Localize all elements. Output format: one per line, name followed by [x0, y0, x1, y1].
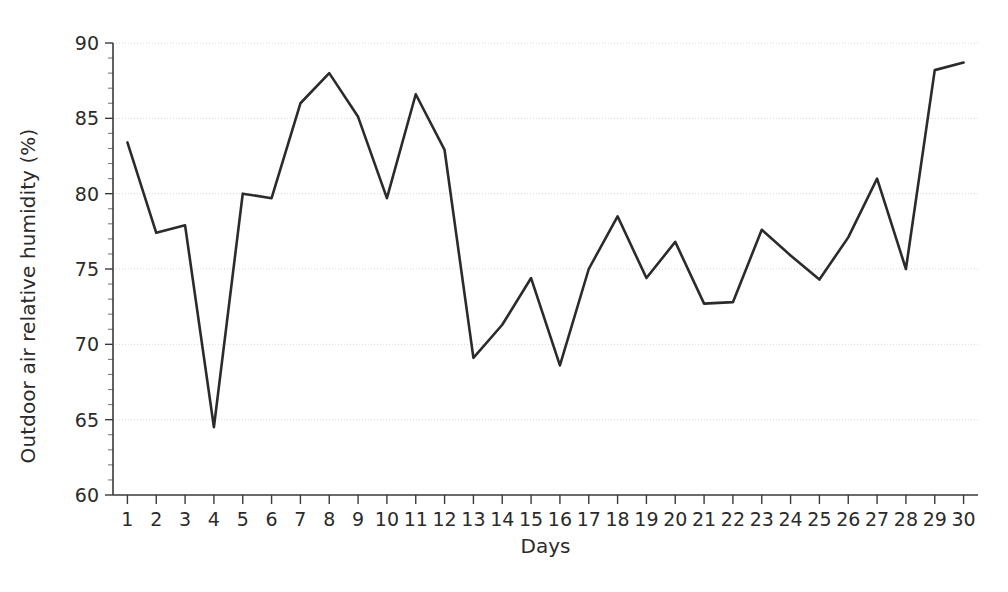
x-tick-label: 11 — [404, 508, 428, 530]
x-tick-label: 17 — [577, 508, 601, 530]
x-tick-label: 18 — [605, 508, 629, 530]
x-tick-label: 4 — [208, 508, 220, 530]
x-tick-label: 6 — [266, 508, 278, 530]
x-tick-label: 12 — [432, 508, 456, 530]
data-series — [127, 63, 963, 428]
humidity-line-chart: Outdoor air relative humidity (%) Days 6… — [0, 0, 1008, 592]
x-tick-label: 24 — [778, 508, 802, 530]
y-tick-label: 85 — [75, 107, 99, 129]
x-tick-label: 9 — [352, 508, 364, 530]
x-tick-label: 1 — [121, 508, 133, 530]
x-tick-label: 10 — [375, 508, 399, 530]
y-tick-label: 70 — [75, 333, 99, 355]
x-axis-ticks — [127, 495, 963, 504]
x-tick-label: 15 — [519, 508, 543, 530]
x-tick-label: 3 — [179, 508, 191, 530]
x-tick-label: 14 — [490, 508, 514, 530]
x-tick-label: 16 — [548, 508, 572, 530]
y-tick-label: 90 — [75, 32, 99, 54]
y-axis-ticks — [105, 43, 113, 495]
x-tick-label: 8 — [323, 508, 335, 530]
x-tick-label: 5 — [237, 508, 249, 530]
x-tick-label: 2 — [150, 508, 162, 530]
y-tick-label: 80 — [75, 183, 99, 205]
plot-area: 60657075808590 1234567891011121314151617… — [0, 0, 1008, 592]
x-tick-label: 22 — [721, 508, 745, 530]
x-tick-label: 25 — [807, 508, 831, 530]
x-tick-labels: 1234567891011121314151617181920212223242… — [121, 508, 975, 530]
x-tick-label: 27 — [865, 508, 889, 530]
x-tick-label: 29 — [923, 508, 947, 530]
y-tick-label: 60 — [75, 484, 99, 506]
x-tick-label: 30 — [951, 508, 975, 530]
x-tick-label: 19 — [634, 508, 658, 530]
gridlines — [113, 43, 978, 420]
y-tick-label: 75 — [75, 258, 99, 280]
x-tick-label: 28 — [894, 508, 918, 530]
x-tick-label: 21 — [692, 508, 716, 530]
x-tick-label: 7 — [294, 508, 306, 530]
x-tick-label: 20 — [663, 508, 687, 530]
y-tick-labels: 60657075808590 — [75, 32, 99, 506]
x-tick-label: 26 — [836, 508, 860, 530]
x-tick-label: 13 — [461, 508, 485, 530]
series-line-humidity — [127, 63, 963, 428]
y-tick-label: 65 — [75, 409, 99, 431]
x-tick-label: 23 — [750, 508, 774, 530]
